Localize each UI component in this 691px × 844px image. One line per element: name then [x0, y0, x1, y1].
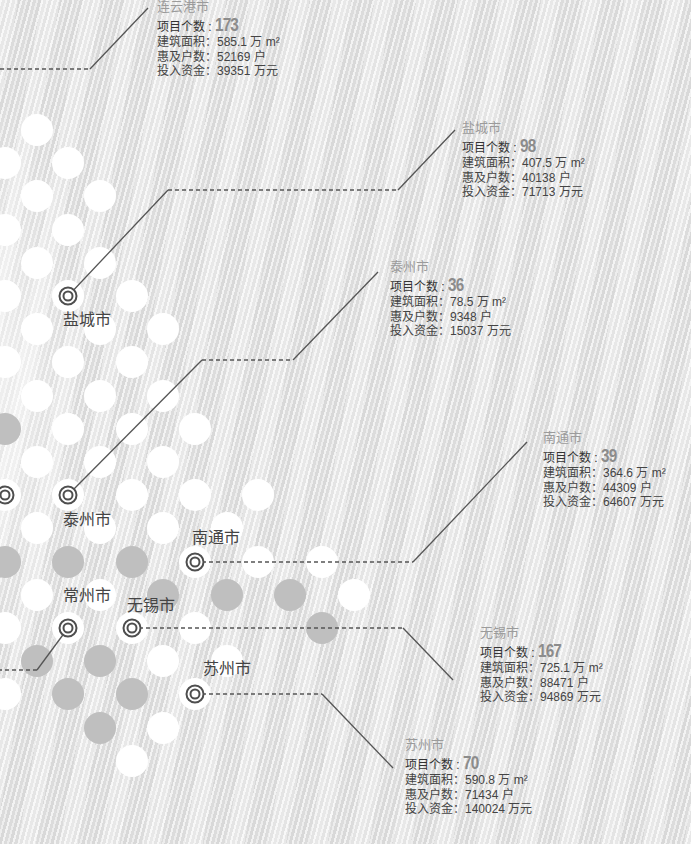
investment-row: 投入资金：15037 万元	[390, 324, 511, 339]
map-dot	[147, 512, 179, 544]
infographic-map: 盐城市 泰州市 南通市 常州市 无锡市 苏州市 连云港市 项目个数 : 173 …	[0, 0, 691, 844]
marker-taizhou[interactable]	[60, 487, 77, 504]
map-dot	[116, 280, 148, 312]
map-label-wuxi: 无锡市	[127, 597, 175, 614]
households-row: 惠及户数：9348 户	[390, 310, 511, 325]
map-dot	[84, 380, 116, 412]
map-dot-gray	[116, 546, 148, 578]
area-row: 建筑面积：78.5 万 m²	[390, 295, 511, 310]
area-label: 建筑面积：	[390, 295, 450, 309]
map-dot	[147, 645, 179, 677]
marker-yancheng[interactable]	[60, 288, 77, 305]
map-dot	[52, 413, 84, 445]
project-count-label: 项目个数 :	[405, 758, 463, 772]
map-dot	[0, 678, 21, 710]
map-dot	[21, 180, 53, 212]
project-count-value: 173	[215, 15, 238, 35]
map-dot	[21, 247, 53, 279]
project-count-row: 项目个数 : 36	[390, 275, 511, 295]
area-value: 590.8 万 m²	[465, 773, 528, 787]
info-card-suzhou: 苏州市 项目个数 : 70 建筑面积：590.8 万 m² 惠及户数：71434…	[405, 737, 532, 817]
area-value: 585.1 万 m²	[217, 35, 280, 49]
households-row: 惠及户数：71434 户	[405, 788, 532, 803]
map-dot	[147, 712, 179, 744]
project-count-value: 36	[448, 275, 463, 295]
project-count-row: 项目个数 : 98	[462, 136, 585, 156]
map-label-changzhou: 常州市	[63, 587, 111, 604]
map-dot-gray	[274, 579, 306, 611]
map-dot	[21, 579, 53, 611]
info-card-taizhou: 泰州市 项目个数 : 36 建筑面积：78.5 万 m² 惠及户数：9348 户…	[390, 259, 511, 339]
info-card-lianyungang: 连云港市 项目个数 : 173 建筑面积：585.1 万 m² 惠及户数：521…	[157, 0, 280, 79]
households-value: 52169 户	[217, 50, 266, 64]
households-label: 惠及户数：	[462, 171, 522, 185]
map-dot	[21, 512, 53, 544]
project-count-row: 项目个数 : 167	[480, 641, 603, 661]
city-title: 无锡市	[480, 625, 603, 641]
project-count-row: 项目个数 : 39	[543, 446, 666, 466]
area-row: 建筑面积：725.1 万 m²	[480, 661, 603, 676]
investment-row: 投入资金：140024 万元	[405, 802, 532, 817]
map-dot	[0, 346, 21, 378]
households-label: 惠及户数：	[543, 481, 603, 495]
map-dot-gray	[0, 413, 21, 445]
map-label-yancheng: 盐城市	[63, 311, 111, 328]
map-dot	[21, 114, 53, 146]
project-count-value: 98	[520, 136, 535, 156]
area-label: 建筑面积：	[405, 773, 465, 787]
project-count-value: 39	[601, 446, 616, 466]
area-row: 建筑面积：585.1 万 m²	[157, 35, 280, 50]
target-center-icon	[64, 292, 73, 301]
city-title: 泰州市	[390, 259, 511, 275]
area-label: 建筑面积：	[462, 156, 522, 170]
city-title: 苏州市	[405, 737, 532, 753]
map-label-nantong: 南通市	[192, 529, 240, 546]
map-dot	[52, 147, 84, 179]
project-count-label: 项目个数 :	[480, 646, 538, 660]
households-row: 惠及户数：52169 户	[157, 50, 280, 65]
map-dot	[116, 745, 148, 777]
map-dot	[0, 612, 21, 644]
households-row: 惠及户数：44309 户	[543, 481, 666, 496]
households-value: 9348 户	[450, 310, 492, 324]
investment-value: 64607 万元	[603, 495, 664, 509]
project-count-row: 项目个数 : 70	[405, 753, 532, 773]
households-label: 惠及户数：	[390, 310, 450, 324]
investment-label: 投入资金：	[405, 802, 465, 816]
area-row: 建筑面积：364.6 万 m²	[543, 466, 666, 481]
info-card-yancheng: 盐城市 项目个数 : 98 建筑面积：407.5 万 m² 惠及户数：40138…	[462, 120, 585, 200]
marker-suzhou[interactable]	[187, 686, 204, 703]
marker-changzhou[interactable]	[60, 620, 77, 637]
investment-row: 投入资金：71713 万元	[462, 185, 585, 200]
leader-line-lianyungang	[0, 8, 148, 69]
project-count-label: 项目个数 :	[462, 141, 520, 155]
map-dot-gray	[52, 678, 84, 710]
map-dot-gray	[116, 678, 148, 710]
target-center-icon	[128, 624, 137, 633]
marker-nantong[interactable]	[187, 554, 204, 571]
project-count-label: 项目个数 :	[543, 451, 601, 465]
map-dot	[52, 346, 84, 378]
map-dot	[52, 214, 84, 246]
map-dot	[21, 380, 53, 412]
marker-left-edge[interactable]	[0, 487, 14, 504]
city-title: 连云港市	[157, 0, 280, 15]
marker-wuxi[interactable]	[124, 620, 141, 637]
investment-label: 投入资金：	[543, 495, 603, 509]
map-dot	[179, 479, 211, 511]
project-count-label: 项目个数 :	[390, 280, 448, 294]
investment-label: 投入资金：	[462, 185, 522, 199]
map-dot-gray	[84, 645, 116, 677]
investment-label: 投入资金：	[480, 690, 540, 704]
map-dot	[116, 479, 148, 511]
investment-row: 投入资金：39351 万元	[157, 64, 280, 79]
map-dot	[179, 413, 211, 445]
area-value: 407.5 万 m²	[522, 156, 585, 170]
map-dot	[116, 413, 148, 445]
target-center-icon	[1, 491, 10, 500]
map-dot-gray	[211, 579, 243, 611]
investment-value: 39351 万元	[217, 64, 278, 78]
map-dot	[242, 479, 274, 511]
investment-row: 投入资金：64607 万元	[543, 495, 666, 510]
map-dot	[116, 346, 148, 378]
